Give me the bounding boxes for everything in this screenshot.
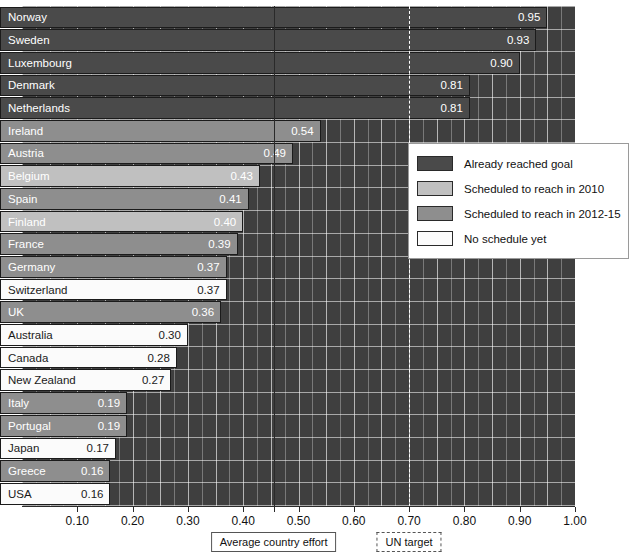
bar-category-label: Finland bbox=[8, 216, 46, 228]
bar-sweden: Sweden0.93 bbox=[0, 29, 536, 51]
axis-tick-label: 0.10 bbox=[66, 514, 89, 528]
axis-tick-label: 0.40 bbox=[232, 514, 255, 528]
bar-category-label: Germany bbox=[8, 261, 55, 273]
axis-tick bbox=[77, 507, 78, 512]
bar-category-label: Netherlands bbox=[8, 102, 70, 114]
bar-portugal: Portugal0.19 bbox=[0, 415, 127, 437]
bar-value-label: 0.54 bbox=[291, 125, 313, 137]
axis-tick-label: 0.80 bbox=[453, 514, 476, 528]
annotation-average-country-effort: Average country effort bbox=[211, 532, 337, 552]
legend-swatch-reached bbox=[417, 156, 453, 171]
axis-tick bbox=[133, 507, 134, 512]
bar-category-label: Portugal bbox=[8, 420, 51, 432]
bar-japan: Japan0.17 bbox=[0, 438, 116, 460]
axis-tick-label: 1.00 bbox=[563, 514, 586, 528]
bar-value-label: 0.41 bbox=[219, 193, 241, 205]
bar-category-label: France bbox=[8, 238, 44, 250]
bar-value-label: 0.93 bbox=[507, 34, 529, 46]
bar-value-label: 0.37 bbox=[197, 284, 219, 296]
bar-category-label: Spain bbox=[8, 193, 37, 205]
bar-category-label: UK bbox=[8, 306, 24, 318]
bar-australia: Australia0.30 bbox=[0, 324, 188, 346]
bar-greece: Greece0.16 bbox=[0, 460, 110, 482]
bar-chart: Norway0.95Sweden0.93Luxembourg0.90Denmar… bbox=[0, 0, 633, 556]
bar-value-label: 0.49 bbox=[264, 147, 286, 159]
bar-category-label: Belgium bbox=[8, 170, 50, 182]
legend-label: Scheduled to reach in 2012-15 bbox=[464, 208, 621, 220]
bar-category-label: Italy bbox=[8, 397, 29, 409]
legend-swatch-none bbox=[417, 231, 453, 246]
bar-category-label: Switzerland bbox=[8, 284, 67, 296]
bar-category-label: Norway bbox=[8, 11, 47, 23]
bar-value-label: 0.27 bbox=[142, 374, 164, 386]
axis-tick-label: 0.30 bbox=[176, 514, 199, 528]
bar-value-label: 0.19 bbox=[98, 397, 120, 409]
bar-ireland: Ireland0.54 bbox=[0, 120, 321, 142]
bar-belgium: Belgium0.43 bbox=[0, 165, 260, 187]
bar-category-label: Austria bbox=[8, 147, 44, 159]
bar-denmark: Denmark0.81 bbox=[0, 75, 470, 97]
bar-category-label: Denmark bbox=[8, 79, 55, 91]
legend-label: Already reached goal bbox=[464, 158, 573, 170]
axis-tick-label: 0.90 bbox=[508, 514, 531, 528]
axis-tick-label: 0.50 bbox=[287, 514, 310, 528]
bar-austria: Austria0.49 bbox=[0, 143, 293, 165]
bar-category-label: Ireland bbox=[8, 125, 43, 137]
bar-value-label: 0.40 bbox=[214, 216, 236, 228]
x-axis bbox=[22, 506, 575, 513]
axis-tick bbox=[464, 507, 465, 512]
bar-category-label: Canada bbox=[8, 352, 48, 364]
axis-tick bbox=[409, 507, 410, 512]
legend: Already reached goalScheduled to reach i… bbox=[408, 143, 629, 259]
bar-category-label: USA bbox=[8, 488, 32, 500]
legend-item: Scheduled to reach in 2012-15 bbox=[417, 201, 620, 226]
bar-uk: UK0.36 bbox=[0, 301, 221, 323]
bar-finland: Finland0.40 bbox=[0, 211, 243, 233]
bar-category-label: Sweden bbox=[8, 34, 50, 46]
legend-label: Scheduled to reach in 2010 bbox=[464, 183, 604, 195]
bar-value-label: 0.16 bbox=[81, 488, 103, 500]
axis-tick bbox=[354, 507, 355, 512]
bar-category-label: New Zealand bbox=[8, 374, 76, 386]
bar-value-label: 0.30 bbox=[159, 329, 181, 341]
bar-switzerland: Switzerland0.37 bbox=[0, 279, 227, 301]
bar-spain: Spain0.41 bbox=[0, 188, 249, 210]
bar-value-label: 0.43 bbox=[230, 170, 252, 182]
axis-tick-label: 0.20 bbox=[121, 514, 144, 528]
axis-tick bbox=[299, 507, 300, 512]
bar-italy: Italy0.19 bbox=[0, 392, 127, 414]
legend-swatch-sched2012 bbox=[417, 206, 453, 221]
bar-category-label: Greece bbox=[8, 465, 46, 477]
annotation-un-target: UN target bbox=[377, 532, 442, 552]
bar-value-label: 0.17 bbox=[87, 442, 109, 454]
bar-value-label: 0.39 bbox=[208, 238, 230, 250]
axis-tick-label: 0.60 bbox=[342, 514, 365, 528]
bar-value-label: 0.36 bbox=[192, 306, 214, 318]
bar-value-label: 0.95 bbox=[518, 11, 540, 23]
axis-tick bbox=[520, 507, 521, 512]
bar-netherlands: Netherlands0.81 bbox=[0, 97, 470, 119]
marker-line bbox=[274, 6, 275, 512]
legend-label: No schedule yet bbox=[464, 233, 546, 245]
legend-item: No schedule yet bbox=[417, 226, 620, 251]
legend-item: Already reached goal bbox=[417, 151, 620, 176]
legend-item: Scheduled to reach in 2010 bbox=[417, 176, 620, 201]
legend-swatch-sched2010 bbox=[417, 181, 453, 196]
bar-new-zealand: New Zealand0.27 bbox=[0, 369, 171, 391]
bar-value-label: 0.28 bbox=[147, 352, 169, 364]
bar-usa: USA0.16 bbox=[0, 483, 110, 505]
bar-germany: Germany0.37 bbox=[0, 256, 227, 278]
bar-value-label: 0.19 bbox=[98, 420, 120, 432]
bar-category-label: Luxembourg bbox=[8, 57, 72, 69]
marker-line bbox=[409, 6, 410, 512]
bar-france: France0.39 bbox=[0, 233, 238, 255]
bar-canada: Canada0.28 bbox=[0, 347, 177, 369]
axis-tick-label: 0.70 bbox=[397, 514, 420, 528]
bar-value-label: 0.81 bbox=[441, 79, 463, 91]
axis-tick bbox=[243, 507, 244, 512]
axis-tick bbox=[575, 507, 576, 512]
bar-value-label: 0.90 bbox=[490, 57, 512, 69]
axis-tick bbox=[188, 507, 189, 512]
bar-category-label: Japan bbox=[8, 442, 39, 454]
bar-category-label: Australia bbox=[8, 329, 53, 341]
